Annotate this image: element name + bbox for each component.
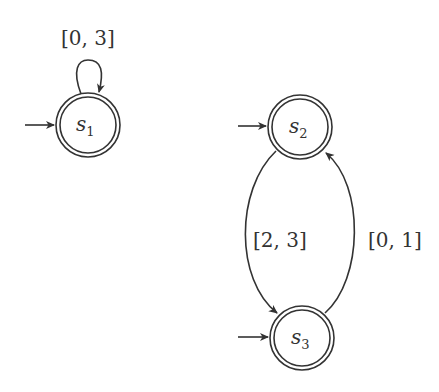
self-loop-s1 [77, 60, 102, 94]
state-label-s2: s2 [289, 114, 308, 141]
edge-label-s1-s1: [0, 3] [61, 26, 115, 50]
state-s3: s3 [270, 306, 334, 370]
edge-label-s3-s2: [0, 1] [368, 228, 422, 252]
state-label-s3: s3 [291, 325, 310, 352]
edge-label-s2-s3: [2, 3] [253, 228, 307, 252]
state-s1: s1 [56, 93, 120, 157]
edge-s3-s2 [325, 153, 354, 313]
automaton-diagram: s1 [0, 3] s2 s3 [2, 3] [0, 1] [0, 0, 439, 392]
state-label-s1: s1 [76, 112, 95, 139]
state-s2: s2 [268, 95, 332, 159]
